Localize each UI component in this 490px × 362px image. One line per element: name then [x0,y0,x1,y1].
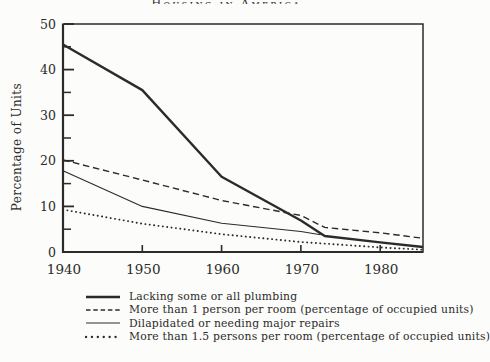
y-tick-label: 10 [40,199,56,214]
chart-frame [63,24,423,252]
series-line-2 [63,171,321,235]
legend-swatch-dotted [85,332,129,342]
x-tick-label: 1940 [47,261,81,277]
series-line-0 [63,45,423,248]
y-tick-label: 30 [40,108,56,123]
chart-legend: Lacking some or all plumbingMore than 1 … [85,290,437,344]
series-line-3 [63,210,423,250]
x-tick-label: 1960 [205,261,239,277]
legend-label: Dilapidated or needing major repairs [129,317,340,330]
legend-label: More than 1.5 persons per room (percenta… [129,330,490,343]
legend-row-2: Dilapidated or needing major repairs [85,317,437,330]
x-tick-label: 1980 [364,261,398,277]
legend-row-3: More than 1.5 persons per room (percenta… [85,330,437,343]
y-tick-label: 50 [40,17,56,32]
x-tick-label: 1950 [126,261,160,277]
legend-swatch-dashed [85,305,129,315]
legend-row-1: More than 1 person per room (percentage … [85,303,437,316]
y-tick-label: 40 [40,62,56,77]
legend-swatch-solid-thick [85,292,129,302]
series-line-1 [63,160,423,238]
y-tick-label: 20 [40,153,56,168]
legend-label: Lacking some or all plumbing [129,290,297,303]
x-tick-label: 1970 [285,261,319,277]
x-axis-ticks: 19401950196019701980 [47,245,399,277]
legend-row-0: Lacking some or all plumbing [85,290,437,303]
y-tick-label: 0 [48,245,56,260]
y-axis-ticks: 01020304050 [40,17,74,260]
legend-label: More than 1 person per room (percentage … [129,303,474,316]
legend-swatch-solid-thin [85,318,129,328]
